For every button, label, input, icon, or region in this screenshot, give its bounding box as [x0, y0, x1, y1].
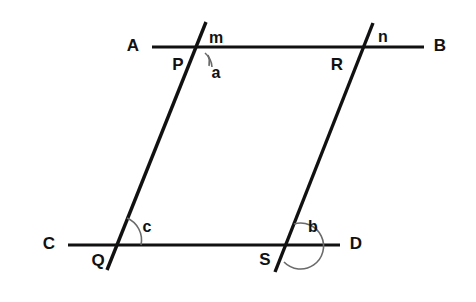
label-angle-c: c: [143, 218, 152, 235]
label-point-q: Q: [91, 251, 104, 270]
transversal-m: [107, 22, 206, 270]
label-point-s: S: [259, 250, 270, 269]
label-b-endpoint: B: [434, 36, 446, 55]
angle-arc-c: [127, 218, 142, 245]
geometry-figure: A B C D P R Q S m n a c b: [0, 0, 476, 302]
label-d-endpoint: D: [350, 234, 362, 253]
label-c-endpoint: C: [43, 234, 55, 253]
geometry-canvas: A B C D P R Q S m n a c b: [0, 0, 476, 302]
label-point-p: P: [172, 55, 183, 74]
label-transversal-n: n: [378, 28, 388, 45]
label-angle-b: b: [308, 218, 318, 235]
label-angle-a: a: [212, 64, 221, 81]
label-point-r: R: [331, 55, 343, 74]
label-a-endpoint: A: [127, 36, 139, 55]
label-transversal-m: m: [209, 29, 223, 46]
